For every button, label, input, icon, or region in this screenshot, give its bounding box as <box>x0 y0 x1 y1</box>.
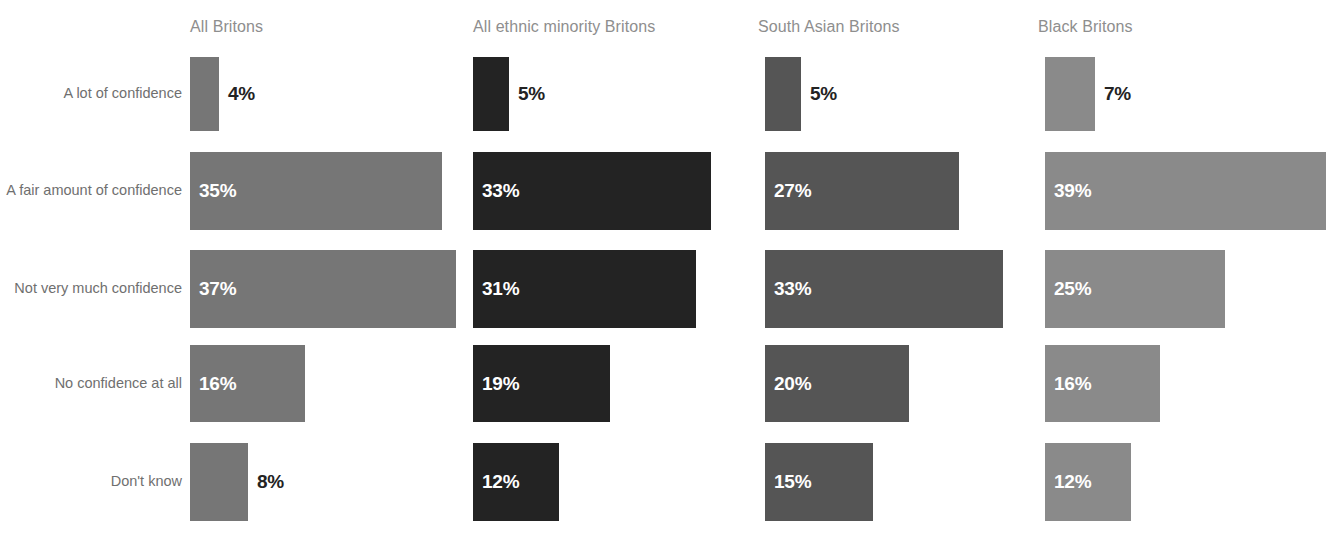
bar-value-c4-r2: 39% <box>1054 180 1091 202</box>
bar-value-c3-r5: 15% <box>774 471 811 493</box>
bar-value-c2-r2: 33% <box>482 180 519 202</box>
bar-c1-r1 <box>190 57 219 131</box>
bar-value-c1-r1: 4% <box>228 83 255 105</box>
bar-value-c3-r2: 27% <box>774 180 811 202</box>
column-header-4: Black Britons <box>1038 18 1133 36</box>
bar-value-c1-r2: 35% <box>199 180 236 202</box>
bar-value-c3-r1: 5% <box>810 83 837 105</box>
bar-c1-r5 <box>190 443 248 521</box>
bar-value-c4-r3: 25% <box>1054 278 1091 300</box>
row-label-4: No confidence at all <box>0 375 182 391</box>
bar-value-c4-r5: 12% <box>1054 471 1091 493</box>
row-label-3: Not very much confidence <box>0 280 182 296</box>
bar-value-c1-r3: 37% <box>199 278 236 300</box>
row-label-5: Don't know <box>0 473 182 489</box>
bar-c3-r1 <box>765 57 801 131</box>
bar-value-c1-r5: 8% <box>257 471 284 493</box>
bar-value-c2-r5: 12% <box>482 471 519 493</box>
bar-c4-r1 <box>1045 57 1095 131</box>
bar-value-c3-r4: 20% <box>774 373 811 395</box>
bar-value-c4-r4: 16% <box>1054 373 1091 395</box>
bar-c2-r1 <box>473 57 509 131</box>
column-header-2: All ethnic minority Britons <box>473 18 655 36</box>
bar-value-c2-r4: 19% <box>482 373 519 395</box>
bar-value-c2-r1: 5% <box>518 83 545 105</box>
bar-value-c1-r4: 16% <box>199 373 236 395</box>
bar-value-c4-r1: 7% <box>1104 83 1131 105</box>
row-label-2: A fair amount of confidence <box>0 182 182 198</box>
column-header-1: All Britons <box>190 18 263 36</box>
bar-value-c3-r3: 33% <box>774 278 811 300</box>
row-label-1: A lot of confidence <box>0 85 182 101</box>
bar-value-c2-r3: 31% <box>482 278 519 300</box>
column-header-3: South Asian Britons <box>758 18 900 36</box>
grouped-bar-chart: All BritonsAll ethnic minority BritonsSo… <box>0 0 1341 544</box>
